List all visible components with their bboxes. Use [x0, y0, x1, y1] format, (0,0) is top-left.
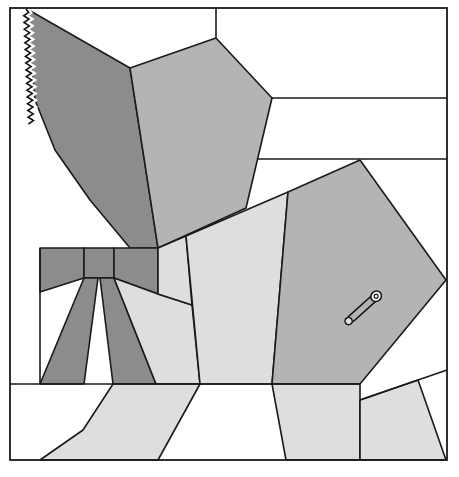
- leg-right: [272, 384, 360, 460]
- bow-knot: [84, 248, 114, 278]
- quilt-block-diagram: [0, 0, 459, 477]
- quilt-block-canvas: [0, 0, 459, 477]
